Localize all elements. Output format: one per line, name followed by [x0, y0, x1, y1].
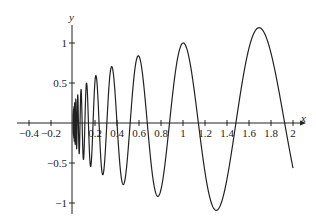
x-tick-label: 1.6 — [242, 127, 256, 139]
y-tick-label: 1 — [62, 37, 68, 49]
x-tick-label: 2 — [290, 127, 296, 139]
y-tick-label: −1 — [55, 197, 67, 209]
data-curve — [73, 28, 293, 211]
x-tick-label: 0.6 — [132, 127, 146, 139]
x-tick-label: 0.8 — [154, 127, 168, 139]
x-tick-label: 1.4 — [220, 127, 234, 139]
y-tick-label: 0.5 — [53, 77, 67, 89]
x-tick-label: 1.8 — [264, 127, 278, 139]
x-tick-label: −0.2 — [41, 127, 61, 139]
y-tick-label: −0.5 — [47, 157, 67, 169]
x-tick-label: −0.4 — [19, 127, 39, 139]
y-axis-label: y — [68, 11, 74, 23]
x-axis-label: x — [300, 112, 306, 124]
chart: −0.4−0.20.20.40.60.811.21.41.61.8210.5−0… — [0, 0, 316, 224]
x-tick-label: 1 — [180, 127, 186, 139]
